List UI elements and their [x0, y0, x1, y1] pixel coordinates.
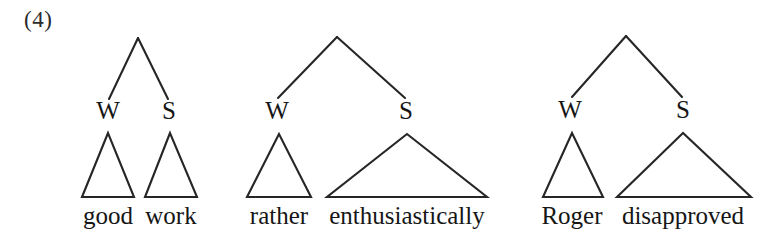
tree-1-branch-s — [138, 38, 168, 99]
tree-1-terminal-word-s: work — [145, 203, 196, 228]
tree-3-node-label-w: W — [558, 97, 582, 122]
tree-2-node-label-s: S — [399, 98, 413, 123]
tree-1-triangle-w — [82, 133, 134, 197]
tree-1-terminal-word-w: good — [83, 203, 133, 228]
tree-2-node-label-w: W — [265, 98, 289, 123]
tree-3-branch-s — [626, 36, 682, 97]
tree-1-branch-w — [109, 38, 138, 99]
tree-3-terminal-word-s: disapproved — [622, 203, 744, 228]
tree-1-node-label-w: W — [96, 98, 120, 123]
tree-3-triangle-s — [617, 133, 751, 197]
tree-branches-and-triangles — [82, 36, 751, 197]
tree-3-branch-w — [572, 36, 626, 97]
tree-3-terminal-word-w: Roger — [541, 203, 602, 228]
tree-2-branch-w — [278, 37, 337, 98]
tree-1-node-label-s: S — [162, 98, 176, 123]
tree-3-triangle-w — [543, 133, 603, 197]
tree-3-node-label-s: S — [676, 97, 690, 122]
tree-2-branch-s — [337, 37, 405, 98]
tree-2-triangle-s — [327, 134, 487, 197]
tree-1-triangle-s — [145, 133, 197, 197]
tree-2-terminal-word-s: enthusiastically — [329, 203, 485, 228]
metrical-tree-figure: (4) WgoodSworkWratherSenthusiasticallyWR… — [0, 0, 777, 242]
tree-2-triangle-w — [247, 134, 311, 197]
tree-2-terminal-word-w: rather — [250, 203, 308, 228]
